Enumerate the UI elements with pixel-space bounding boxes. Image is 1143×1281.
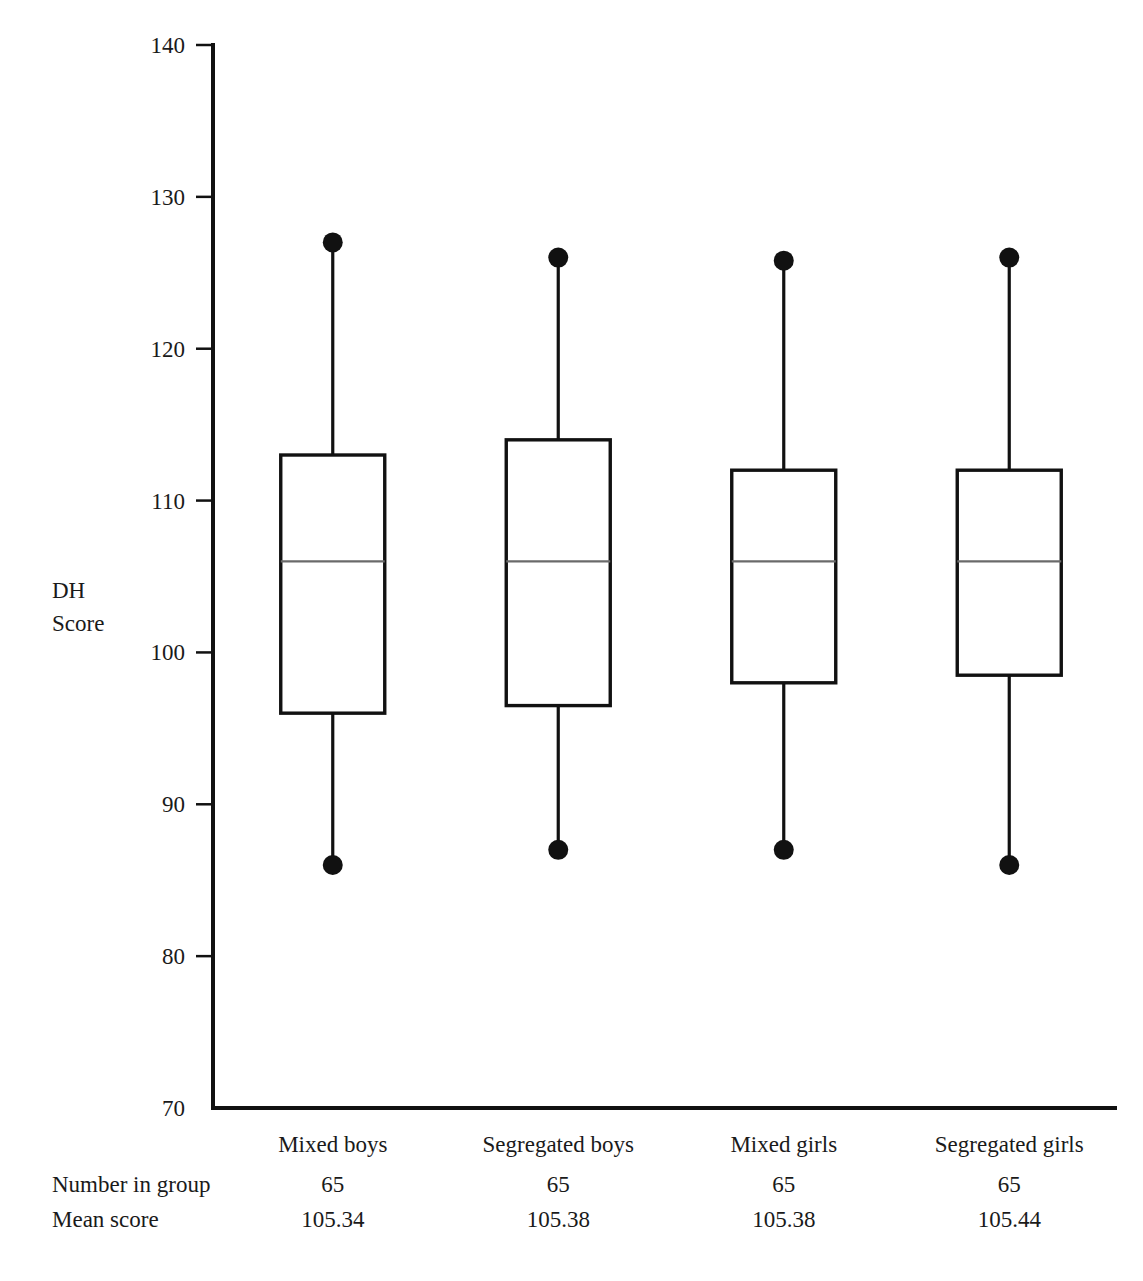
summary-cell-r2-c3: 105.38 (752, 1207, 815, 1232)
summary-cell-r1-c1: 65 (321, 1172, 344, 1197)
category-label-3: Mixed girls (730, 1132, 837, 1157)
min-marker-3 (774, 840, 794, 860)
category-label-4: Segregated girls (935, 1132, 1084, 1157)
box-plot-3 (732, 251, 836, 860)
category-labels: Mixed boysSegregated boysMixed girlsSegr… (278, 1132, 1084, 1157)
y-axis-tick-label-100: 100 (151, 640, 186, 665)
summary-cell-r1-c2: 65 (547, 1172, 570, 1197)
max-marker-2 (548, 248, 568, 268)
y-axis-tick-label-140: 140 (151, 33, 186, 58)
max-marker-4 (999, 248, 1019, 268)
box-iqr-2 (506, 440, 610, 706)
box-iqr-4 (957, 470, 1061, 675)
y-axis-tick-label-130: 130 (151, 185, 186, 210)
summary-cell-r2-c4: 105.44 (978, 1207, 1042, 1232)
max-marker-3 (774, 251, 794, 271)
y-axis-label-line1: DH (52, 578, 85, 603)
box-iqr-3 (732, 470, 836, 683)
box-plot-4 (957, 248, 1061, 875)
summary-cell-r2-c1: 105.34 (301, 1207, 365, 1232)
y-axis-tick-label-90: 90 (162, 792, 185, 817)
y-axis-ticks: 708090100110120130140 (151, 33, 214, 1121)
max-marker-1 (323, 232, 343, 252)
summary-cell-r1-c3: 65 (772, 1172, 795, 1197)
y-axis-tick-label-70: 70 (162, 1096, 185, 1121)
summary-table: Number in group65656565Mean score105.341… (52, 1172, 1041, 1232)
summary-cell-r2-c2: 105.38 (527, 1207, 590, 1232)
summary-row-label-2: Mean score (52, 1207, 159, 1232)
summary-cell-r1-c4: 65 (998, 1172, 1021, 1197)
y-axis-label-line2: Score (52, 611, 104, 636)
box-plot-1 (281, 232, 385, 875)
box-plot-2 (506, 248, 610, 860)
box-plot-series (281, 232, 1062, 875)
box-iqr-1 (281, 455, 385, 713)
min-marker-2 (548, 840, 568, 860)
category-label-2: Segregated boys (483, 1132, 634, 1157)
category-label-1: Mixed boys (278, 1132, 387, 1157)
min-marker-1 (323, 855, 343, 875)
summary-row-label-1: Number in group (52, 1172, 210, 1197)
box-plot-figure: DH Score 708090100110120130140 Mixed boy… (0, 0, 1143, 1281)
y-axis-tick-label-120: 120 (151, 337, 186, 362)
y-axis-tick-label-110: 110 (151, 489, 185, 514)
min-marker-4 (999, 855, 1019, 875)
y-axis-label: DH Score (52, 578, 104, 636)
y-axis-tick-label-80: 80 (162, 944, 185, 969)
